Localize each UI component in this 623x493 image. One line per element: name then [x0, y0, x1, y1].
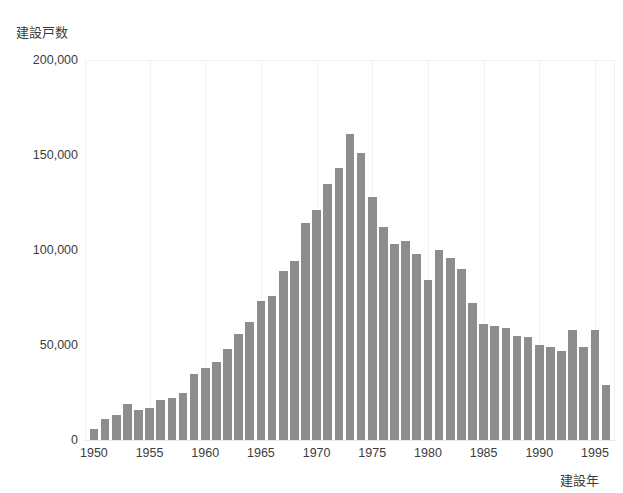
- bar: [168, 398, 177, 440]
- bar: [335, 168, 344, 440]
- bars-layer: [85, 60, 615, 440]
- bar: [435, 250, 444, 440]
- y-axis-ticks: 050,000100,000150,000200,000: [0, 0, 78, 493]
- bar: [446, 258, 455, 440]
- bar: [145, 408, 154, 440]
- bar: [112, 415, 121, 440]
- x-tick-label: 1970: [303, 446, 331, 460]
- bar: [468, 303, 477, 440]
- x-tick-label: 1950: [80, 446, 108, 460]
- bar: [579, 347, 588, 440]
- bar: [323, 184, 332, 441]
- bar: [257, 301, 266, 440]
- bar: [245, 322, 254, 440]
- bar: [557, 351, 566, 440]
- bar: [223, 349, 232, 440]
- y-tick-label: 150,000: [33, 148, 78, 162]
- x-tick-label: 1995: [581, 446, 609, 460]
- x-tick-label: 1955: [136, 446, 164, 460]
- bar: [190, 374, 199, 441]
- bar: [591, 330, 600, 440]
- bar: [412, 254, 421, 440]
- bar: [602, 385, 611, 440]
- y-tick-label: 50,000: [40, 338, 78, 352]
- bar: [457, 269, 466, 440]
- bar: [101, 419, 110, 440]
- bar: [290, 261, 299, 440]
- bar: [301, 223, 310, 440]
- x-axis-ticks: 1950195519601965197019751980198519901995: [0, 446, 623, 470]
- bar: [346, 134, 355, 440]
- bar: [379, 227, 388, 440]
- x-tick-label: 1960: [191, 446, 219, 460]
- bar: [513, 336, 522, 441]
- bar: [524, 337, 533, 440]
- bar: [535, 345, 544, 440]
- bar: [568, 330, 577, 440]
- y-tick-label: 0: [71, 433, 78, 447]
- bar: [357, 153, 366, 440]
- bar: [424, 280, 433, 440]
- bar: [368, 197, 377, 440]
- x-tick-label: 1980: [414, 446, 442, 460]
- x-tick-label: 1965: [247, 446, 275, 460]
- x-tick-label: 1975: [358, 446, 386, 460]
- bar: [134, 410, 143, 440]
- x-tick-label: 1985: [470, 446, 498, 460]
- bar: [312, 210, 321, 440]
- bar-chart: 建設戸数 050,000100,000150,000200,000 195019…: [0, 0, 623, 493]
- x-axis-title: 建設年: [560, 470, 599, 489]
- bar: [390, 244, 399, 440]
- bar: [234, 334, 243, 440]
- x-axis-baseline: [85, 440, 615, 441]
- bar: [179, 393, 188, 441]
- bar: [123, 404, 132, 440]
- bar: [502, 328, 511, 440]
- bar: [401, 241, 410, 441]
- bar: [268, 296, 277, 440]
- bar: [212, 362, 221, 440]
- bar: [546, 347, 555, 440]
- bar: [479, 324, 488, 440]
- x-tick-label: 1990: [525, 446, 553, 460]
- bar: [490, 326, 499, 440]
- bar: [279, 271, 288, 440]
- y-tick-label: 100,000: [33, 243, 78, 257]
- bar: [156, 400, 165, 440]
- y-tick-label: 200,000: [33, 53, 78, 67]
- bar: [90, 429, 99, 440]
- bar: [201, 368, 210, 440]
